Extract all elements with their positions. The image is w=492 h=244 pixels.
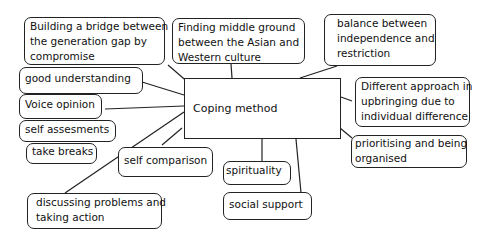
node-discussing-problems: discussing problems and taking action <box>27 193 162 229</box>
node-good-understanding: good understanding <box>19 67 143 94</box>
node-text: restriction <box>337 46 430 61</box>
node-text: self comparison <box>124 153 207 168</box>
node-text: Finding middle ground <box>178 20 299 35</box>
node-text: social support <box>229 197 306 212</box>
node-text: prioritising and being <box>355 136 463 151</box>
node-self-comparison: self comparison <box>118 147 213 177</box>
node-text: compromise <box>30 49 159 64</box>
central-label: Coping method <box>193 101 277 116</box>
node-text: between the Asian and <box>178 35 299 50</box>
node-text: upbringing due to <box>361 94 464 109</box>
node-text: Western culture <box>178 50 299 65</box>
node-social-support: social support <box>223 192 312 220</box>
node-balance: balance between independence and restric… <box>324 14 436 66</box>
node-middle-ground: Finding middle ground between the Asian … <box>172 18 305 64</box>
node-prioritising: prioritising and being organised <box>351 135 467 168</box>
node-self-assesments: self assesments <box>19 120 116 142</box>
node-text: the generation gap by <box>30 34 159 49</box>
node-voice-opinion: Voice opinion <box>19 94 102 119</box>
node-text: organised <box>355 151 463 166</box>
node-text: Different approach in <box>361 79 464 94</box>
node-take-breaks: take breaks <box>26 143 97 164</box>
node-text: self assesments <box>25 122 110 137</box>
node-bridge: Building a bridge between the generation… <box>24 17 165 65</box>
node-text: Voice opinion <box>25 97 96 112</box>
node-text: taking action <box>36 210 156 225</box>
node-text: good understanding <box>25 71 137 86</box>
node-text: spirituality <box>226 163 288 178</box>
node-text: balance between <box>337 16 430 31</box>
node-spirituality: spirituality <box>223 161 291 185</box>
node-text: Building a bridge between <box>30 19 159 34</box>
node-text: take breaks <box>32 144 91 159</box>
node-different-approach: Different approach in upbringing due to … <box>355 77 470 127</box>
node-text: discussing problems and <box>36 195 156 210</box>
central-node-coping-method: Coping method <box>184 78 341 139</box>
node-text: individual difference <box>361 109 464 124</box>
node-text: independence and <box>337 31 430 46</box>
